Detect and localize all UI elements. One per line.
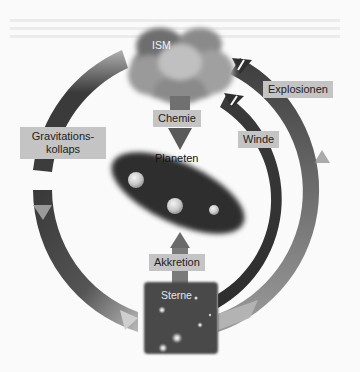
right-outer-chevron bbox=[314, 150, 330, 163]
planet-1 bbox=[128, 172, 144, 188]
explosions-label: Explosionen bbox=[263, 81, 333, 98]
chemistry-label: Chemie bbox=[153, 110, 201, 127]
ism-label: ISM bbox=[152, 39, 171, 51]
gravitational-collapse-line1: Gravitations- bbox=[32, 130, 94, 142]
planets-label: Planeten bbox=[155, 152, 198, 164]
planet-3 bbox=[209, 205, 219, 215]
gravitational-collapse-label: Gravitations- kollaps bbox=[20, 127, 106, 159]
chemistry-arrowhead bbox=[168, 128, 192, 150]
cycle-diagram: ISM Chemie Planeten Akkretion Sterne Gra… bbox=[0, 0, 360, 372]
gravitational-collapse-line2: kollaps bbox=[46, 143, 80, 155]
stars-label: Sterne bbox=[161, 289, 192, 301]
ism-cloud bbox=[128, 28, 234, 104]
accretion-label: Akkretion bbox=[149, 254, 205, 271]
left-arc-lower bbox=[33, 190, 138, 332]
planet-2 bbox=[167, 198, 183, 214]
winds-label: Winde bbox=[238, 131, 279, 148]
cycle-arcs bbox=[0, 0, 360, 372]
accretion-arrowhead bbox=[170, 232, 190, 248]
